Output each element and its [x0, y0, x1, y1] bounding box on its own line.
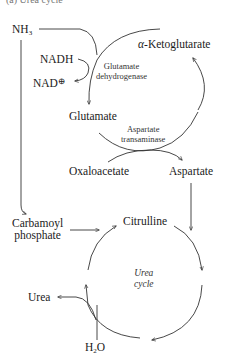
glutamate-label: Glutamate [69, 110, 117, 122]
nh3-to-gdh-arrow [39, 29, 97, 55]
nh3-to-carbamoyl-arrow [21, 40, 26, 214]
figure-caption: (a) Urea cycle [6, 0, 63, 5]
nadh-to-nad-arrow [75, 59, 89, 81]
oxaloacetate-to-aspartate-arrow [108, 150, 182, 162]
water-label: H2O [85, 341, 105, 357]
oxaloacetate-label: Oxaloacetate [69, 165, 129, 177]
carbamoyl-phosphate-label: Carbamoyl phosphate [12, 217, 63, 241]
nadh-label: NADH [40, 53, 73, 65]
cycle-arc-left-top [88, 226, 116, 270]
aspartate-label: Aspartate [169, 165, 213, 177]
nh3-label: NH3 [12, 23, 32, 39]
cycle-arc-right-bottom [152, 285, 202, 340]
cycle-arc-right-top [174, 226, 202, 270]
transaminase-to-akg-arc [193, 58, 204, 110]
urea-cycle-label: Urea cycle [134, 268, 154, 290]
glutamate-dehydrogenase-label: Glutamate dehydrogenase [96, 62, 147, 81]
urea-release-arrow [58, 297, 96, 320]
urea-label: Urea [28, 291, 50, 303]
cycle-arc-bottom-left [86, 285, 140, 338]
alpha-ketoglutarate-label: α-Ketoglutarate [138, 38, 210, 50]
aspartate-transaminase-label: Aspartate transaminase [121, 125, 165, 144]
citrulline-label: Citrulline [123, 215, 167, 227]
nad-plus-label: NAD⊕ [33, 75, 65, 89]
urea-cycle-diagram [0, 0, 229, 361]
